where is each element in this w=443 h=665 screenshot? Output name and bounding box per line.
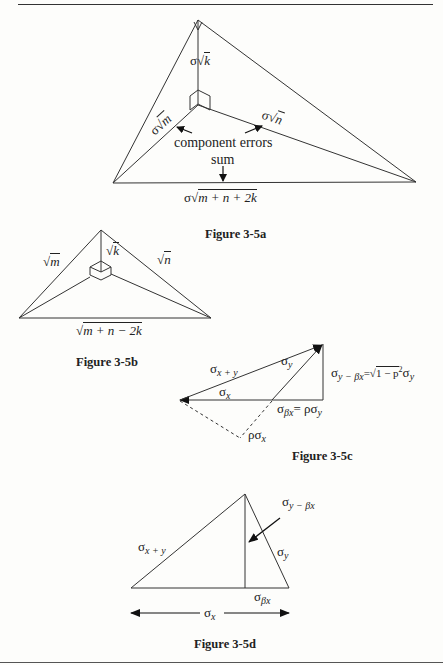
label-sigma-x-plus-y: σx + y xyxy=(138,540,166,553)
label-sigma-y-minus-beta-x: σy − βx xyxy=(282,495,315,508)
label-sigma-x-span: σx xyxy=(202,606,217,619)
caption-figure-3-5d: Figure 3-5d xyxy=(194,637,256,652)
figure-3-5d-diagram xyxy=(0,0,443,665)
bottom-rule xyxy=(0,662,443,663)
label-sigma-beta-x: σβx xyxy=(254,590,270,603)
label-sigma-y: σy xyxy=(277,545,288,558)
